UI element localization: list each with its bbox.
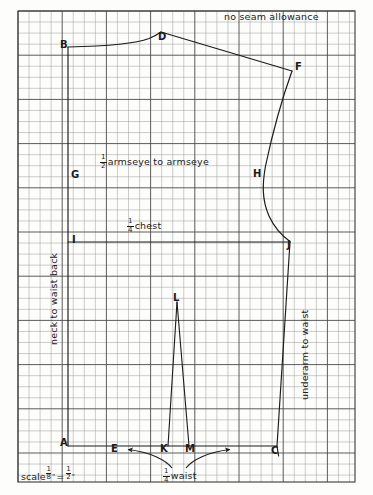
point-label-I: I	[72, 235, 76, 245]
no-seam-allowance-note: no seam allowance	[224, 12, 319, 22]
point-label-M: M	[185, 444, 195, 454]
point-label-K: K	[160, 444, 168, 454]
point-label-A: A	[60, 438, 68, 448]
half-armseye-note: 1 2 armseye to armseye	[100, 154, 209, 170]
waist-note-text: waist	[171, 470, 197, 481]
point-label-J: J	[287, 240, 291, 250]
neck-to-waist-back-note: neck to waist back	[49, 253, 59, 345]
point-label-L: L	[173, 293, 180, 303]
quarter-chest-note: 1 4 chest	[127, 218, 161, 234]
point-label-H: H	[253, 169, 262, 179]
armhole-curve	[263, 71, 292, 242]
scale-prefix: scale	[21, 472, 45, 482]
chest-note-text: chest	[135, 220, 162, 231]
pattern-drawing	[0, 0, 373, 495]
point-label-B: B	[60, 40, 68, 50]
point-label-F: F	[295, 62, 302, 72]
scale-right-fraction: 1 2	[66, 466, 70, 481]
underarm-to-waist-note: underarm to waist	[300, 309, 310, 400]
armseye-note-text: armseye to armseye	[108, 156, 209, 167]
point-label-G: G	[71, 170, 80, 180]
waist-fraction: 1 4	[163, 468, 170, 484]
scale-left-fraction: 1 8	[46, 466, 50, 481]
armseye-fraction: 1 2	[100, 154, 107, 170]
point-label-E: E	[111, 444, 118, 454]
scale-note: scale 1 8 " = 1 2 "	[21, 466, 75, 481]
point-label-C: C	[271, 446, 279, 456]
quarter-waist-note: 1 4 waist	[163, 468, 197, 484]
pattern-sheet: B D F G H I J L A E K M C no seam allowa…	[0, 0, 373, 495]
point-label-D: D	[158, 32, 167, 42]
chest-fraction: 1 4	[127, 218, 134, 234]
dart-right-leg	[177, 302, 189, 446]
scale-left-unit: "	[52, 474, 55, 481]
neckline-curve	[68, 32, 161, 47]
scale-right-unit: "	[72, 474, 75, 481]
scale-equals: =	[56, 472, 64, 482]
